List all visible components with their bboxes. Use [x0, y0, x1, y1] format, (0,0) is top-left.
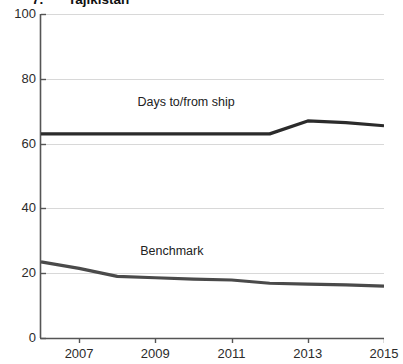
y-tick-label-wrap: 0: [0, 331, 36, 344]
series-label-days-to-from-ship: Days to/from ship: [137, 96, 234, 109]
y-tick-label: 60: [2, 137, 36, 150]
y-tick-label: 20: [2, 266, 36, 279]
series-label-benchmark: Benchmark: [140, 245, 203, 258]
y-tick-marks: [41, 15, 46, 339]
y-tick-label: 80: [2, 72, 36, 85]
y-tick-label-wrap: 40: [0, 201, 36, 214]
y-tick-label: 100: [2, 7, 36, 20]
data-series-group: [41, 121, 384, 286]
x-tick-label: 2011: [209, 347, 255, 360]
y-tick-label: 40: [2, 201, 36, 214]
x-tick-label: 2009: [132, 347, 178, 360]
y-tick-label-wrap: 20: [0, 266, 36, 279]
x-tick-label: 2007: [56, 347, 102, 360]
y-tick-label-wrap: 80: [0, 72, 36, 85]
y-tick-label-wrap: 100: [0, 7, 36, 20]
gridlines: [41, 15, 384, 274]
x-tick-label: 2015: [361, 347, 403, 360]
y-tick-label: 0: [2, 331, 36, 344]
y-tick-label-wrap: 60: [0, 137, 36, 150]
x-tick-label: 2013: [285, 347, 331, 360]
series-line-benchmark: [41, 262, 384, 286]
series-line-days-to-from-ship: [41, 121, 384, 134]
